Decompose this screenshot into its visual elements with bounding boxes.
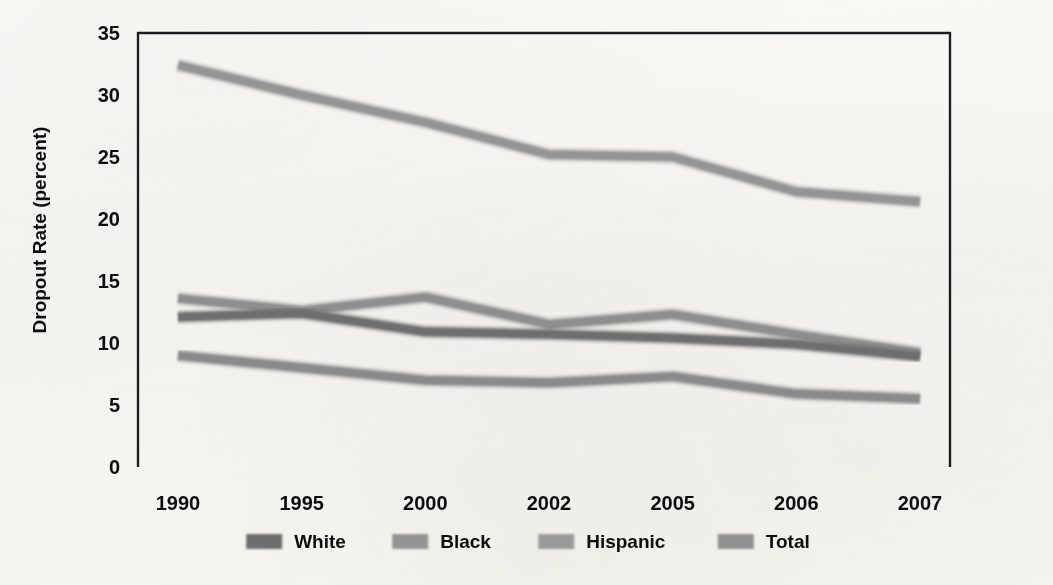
y-axis-tick-labels: 05101520253035 [98,22,120,478]
legend-swatch-total [718,534,754,549]
y-tick-label-35: 35 [98,22,120,44]
y-tick-label-10: 10 [98,332,120,354]
legend-item-hispanic[interactable]: Hispanic [538,531,666,552]
legend-label-total: Total [766,531,810,552]
x-tick-label-2002: 2002 [527,492,572,514]
x-tick-label-1995: 1995 [279,492,324,514]
x-tick-label-2007: 2007 [898,492,943,514]
y-tick-label-20: 20 [98,208,120,230]
legend-item-total[interactable]: Total [718,531,810,552]
legend-swatch-hispanic [538,534,574,549]
x-tick-label-2000: 2000 [403,492,448,514]
legend-swatch-black [392,534,428,549]
x-tick-label-1990: 1990 [156,492,201,514]
chart-canvas: 05101520253035 Dropout Rate (percent) 19… [0,0,1053,585]
y-axis-title: Dropout Rate (percent) [29,127,50,334]
legend-item-white[interactable]: White [246,531,346,552]
y-tick-label-30: 30 [98,84,120,106]
dropout-rate-line-chart: 05101520253035 Dropout Rate (percent) 19… [0,0,1053,585]
series-line-hispanic [178,65,920,201]
y-tick-label-15: 15 [98,270,120,292]
y-axis-label-text: Dropout Rate (percent) [29,127,50,334]
y-tick-label-0: 0 [109,456,120,478]
legend-swatch-white [246,534,282,549]
y-tick-label-25: 25 [98,146,120,168]
data-series-group [178,65,920,399]
legend-label-white: White [294,531,346,552]
x-axis-ticks-and-labels: 1990199520002002200520062007 [156,467,943,514]
legend-item-black[interactable]: Black [392,531,491,552]
chart-legend: WhiteBlackHispanicTotal [246,531,810,552]
legend-label-black: Black [440,531,491,552]
x-tick-label-2006: 2006 [774,492,819,514]
legend-label-hispanic: Hispanic [586,531,666,552]
x-tick-label-2005: 2005 [650,492,695,514]
y-tick-label-5: 5 [109,394,120,416]
series-line-total [178,355,920,398]
